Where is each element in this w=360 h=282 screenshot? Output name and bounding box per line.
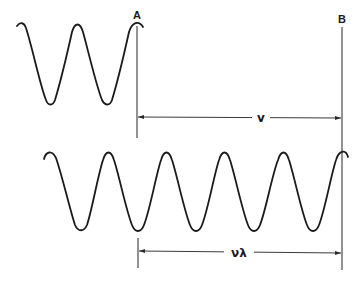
velocity-arrow-right-icon [335, 116, 341, 120]
velocity-arrow-line [138, 117, 341, 118]
frequency-wavelength-label: νλ [231, 246, 247, 260]
marker-a-label: A [133, 9, 141, 21]
velocity-dimension: v [138, 109, 341, 125]
velocity-label: v [257, 111, 265, 125]
velocity-arrow-left-icon [138, 115, 144, 119]
frequency-wavelength-dimension: νλ [139, 243, 341, 260]
marker-b: B [338, 13, 346, 270]
frequency-wavelength-arrow-right-icon [335, 251, 341, 255]
top-wave [17, 23, 143, 105]
marker-b-label: B [338, 13, 346, 25]
bottom-wave-curve [44, 152, 348, 231]
top-wave-curve [17, 23, 143, 105]
bottom-wave [44, 152, 348, 231]
frequency-wavelength-arrow-left-icon [139, 249, 145, 253]
wave-diagram: A B v νλ [0, 0, 360, 282]
